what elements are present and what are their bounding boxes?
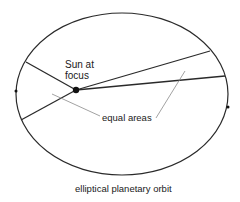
sun-label-line2: focus <box>65 70 89 81</box>
orbit-ellipse <box>16 13 228 175</box>
sun-icon <box>73 87 79 93</box>
orbit-diagram: Sun at focus equal areas elliptical plan… <box>0 0 240 202</box>
planet-marker-right <box>227 106 230 109</box>
radius-lines <box>21 51 225 120</box>
planet-marker-left <box>15 90 18 93</box>
diagram-title: elliptical planetary orbit <box>75 183 172 194</box>
pointer-line-right <box>156 71 185 118</box>
sun-label-line1: Sun at <box>65 59 94 70</box>
pointer-line-left <box>52 94 100 116</box>
radius-line-lower-left <box>21 90 76 120</box>
equal-areas-label: equal areas <box>102 112 152 123</box>
